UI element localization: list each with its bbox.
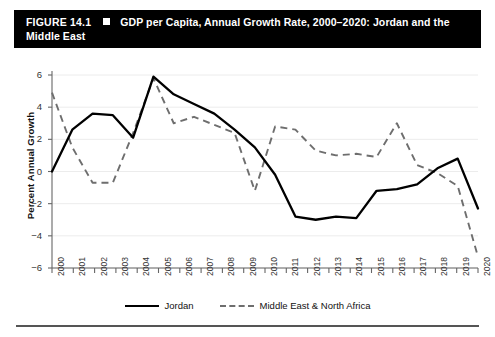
y-tick-label: −4 [20,230,42,241]
chart-legend: Jordan Middle East & North Africa [0,300,495,311]
legend-swatch-solid-icon [125,305,159,307]
y-tick-label: −6 [20,262,42,273]
x-tick-label: 2012 [312,257,322,276]
legend-label-mena: Middle East & North Africa [260,300,371,311]
x-tick-label: 2008 [226,257,236,276]
x-tick-label: 2006 [184,257,194,276]
legend-item-jordan: Jordan [125,300,194,311]
x-tick-label: 2007 [205,257,215,276]
x-tick-label: 2013 [333,257,343,276]
x-tick-label: 2016 [397,257,407,276]
black-square-bullet-icon [103,18,110,25]
legend-swatch-dashed-icon [220,305,254,307]
x-tick-label: 2018 [439,257,449,276]
x-tick-label: 2001 [77,257,87,276]
x-tick-label: 2004 [141,257,151,276]
figure-title-line: FIGURE 14.1GDP per Capita, Annual Growth… [26,15,471,43]
x-tick-label: 2005 [163,257,173,276]
x-tick-label: 2000 [56,257,66,276]
x-tick-label: 2015 [376,257,386,276]
legend-label-jordan: Jordan [165,300,194,311]
x-tick-label: 2019 [461,257,471,276]
x-tick-label: 2020 [482,257,492,276]
y-tick-label: 0 [20,166,42,177]
x-tick-label: 2014 [354,257,364,276]
axis-ticks-group [48,75,478,273]
line-chart-plot [0,52,495,317]
legend-item-mena: Middle East & North Africa [220,300,371,311]
footer-rule [16,325,479,327]
y-tick-label: 6 [20,69,42,80]
x-tick-label: 2003 [120,257,130,276]
x-tick-label: 2011 [290,258,300,276]
x-tick-label: 2010 [269,257,279,276]
axis-lines-group [52,71,478,268]
y-tick-label: −2 [20,198,42,209]
series-line-jordan [52,77,478,220]
series-line-middle-east-north-africa [52,78,478,257]
x-tick-label: 2017 [418,257,428,276]
gridlines-group [52,75,478,268]
chart-container: Percent Annual Growth 6420−2−4−6 2000200… [0,52,495,317]
x-tick-label: 2009 [248,257,258,276]
x-tick-label: 2002 [99,257,109,276]
figure-title-bar: FIGURE 14.1GDP per Capita, Annual Growth… [14,10,481,48]
figure-number: FIGURE 14.1 [26,16,91,28]
y-tick-label: 2 [20,133,42,144]
y-tick-label: 4 [20,101,42,112]
